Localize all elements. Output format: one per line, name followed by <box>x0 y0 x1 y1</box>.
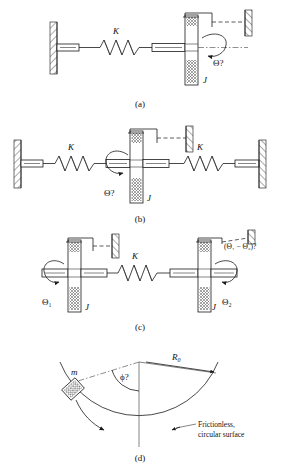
panel-c-angle-label-right: Θ₂ <box>222 297 232 307</box>
panel-b-left-wall <box>14 140 21 188</box>
panel-b: K Θ? J <box>14 126 266 224</box>
panel-b-spring-label-left: K <box>67 142 75 152</box>
panel-b-collar-left <box>106 160 130 168</box>
panel-a-caption: (a) <box>135 99 145 109</box>
panel-d-mass-label: m <box>71 367 78 377</box>
panel-d: R0 ϕ? m Frictionless, circular surface (… <box>60 352 245 463</box>
panel-b-angle-label: Θ? <box>104 188 115 198</box>
panel-c-left-wall <box>112 234 119 258</box>
panel-b-collar-right <box>143 160 169 168</box>
panel-a-fixed-wall <box>50 22 57 74</box>
panel-a-spring-label: K <box>112 26 120 36</box>
panel-b-left-collar <box>21 160 43 167</box>
panel-c-left-inner-collar <box>81 269 107 277</box>
panel-d-caption: (d) <box>135 453 146 463</box>
panel-b-inertia-label: J <box>147 193 152 203</box>
panel-d-angle-label: ϕ? <box>120 372 129 382</box>
panel-c-right-inner-collar <box>170 269 198 277</box>
panel-a-angle-label: Θ? <box>213 58 224 68</box>
panel-c-left-collar-outer <box>42 269 68 277</box>
panel-c-inertia-label-right: J <box>212 302 217 312</box>
panel-b-spring-right <box>184 156 223 171</box>
panel-b-right-wall <box>259 140 266 188</box>
panel-a-right-wall <box>245 10 252 36</box>
panel-d-surface-label-line1: Frictionless, <box>198 420 235 429</box>
panel-c-angle-label-left: Θ₁ <box>42 297 52 307</box>
panel-a-collar <box>152 44 185 52</box>
panel-c-right-disk <box>198 240 211 312</box>
panel-a-spring <box>100 40 139 55</box>
panel-d-direction-arrow <box>76 400 104 430</box>
panel-c-spring <box>118 265 157 281</box>
figure-container: K Θ? J <box>0 0 286 469</box>
panel-a-inertia-label: J <box>203 75 208 85</box>
panel-b-disk <box>130 131 143 203</box>
panel-c-caption: (c) <box>135 322 145 332</box>
panel-b-spring-label-right: K <box>196 142 204 152</box>
panel-a: K Θ? J <box>50 10 252 109</box>
panel-d-sliding-block <box>62 378 85 400</box>
panel-a-wall-shaft <box>57 44 79 51</box>
panel-b-top-wall <box>186 126 193 152</box>
panel-a-rotation-arrow <box>202 34 226 56</box>
panel-c-inertia-label-left: J <box>85 302 90 312</box>
panel-b-right-collar <box>235 160 259 167</box>
panel-d-radius-arrow <box>146 362 214 372</box>
panel-a-disk <box>185 15 198 85</box>
panel-b-spring-left <box>55 156 94 171</box>
panel-b-caption: (b) <box>135 214 146 224</box>
panel-d-radius-line <box>139 362 216 373</box>
panel-d-surface-label-line2: circular surface <box>198 430 245 439</box>
panel-d-radius-label: R0 <box>171 352 181 363</box>
panel-d-callout-arrow <box>172 427 180 430</box>
panel-c-left-disk <box>68 240 81 312</box>
panel-d-mass-radius-line <box>78 362 139 381</box>
panel-c-spring-label: K <box>131 251 139 261</box>
panel-c-right-collar-outer <box>211 269 237 277</box>
panel-c-relative-angle-label: (Θ₁ − Θ₂)? <box>224 242 257 251</box>
figure-svg: K Θ? J <box>0 0 286 469</box>
panel-c: Θ₁ J K <box>42 230 257 332</box>
